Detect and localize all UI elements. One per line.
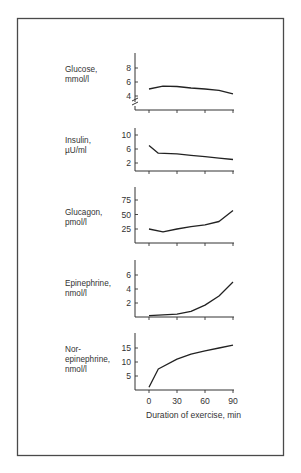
panels: 468Glucose,mmol/l2610Insulin,µU/ml255075…	[65, 53, 234, 393]
y-tick-label: 75	[121, 195, 131, 205]
panel-label: nmol/l	[65, 365, 87, 374]
panel-label: mmol/l	[65, 75, 89, 84]
x-tick-label: 90	[228, 396, 238, 406]
y-tick-label: 6	[126, 270, 131, 280]
x-tick-label: 0	[147, 396, 152, 406]
y-tick-label: 6	[126, 77, 131, 87]
panel-epinephrine: 246Epinephrine,nmol/l	[65, 260, 234, 320]
y-tick-label: 15	[121, 343, 131, 353]
exercise-hormone-chart: 468Glucose,mmol/l2610Insulin,µU/ml255075…	[0, 0, 301, 473]
y-tick-label: 4	[126, 284, 131, 294]
data-curve-insulin	[149, 146, 233, 160]
x-axis-title: Duration of exercise, min	[146, 410, 241, 420]
panel-label: Glucagon,	[65, 208, 102, 217]
panel-label: µU/ml	[65, 146, 87, 155]
panel-label: Nor-	[65, 345, 81, 354]
y-tick-label: 10	[121, 357, 131, 367]
panel-label: nmol/l	[65, 289, 87, 298]
panel-label: Glucose,	[65, 65, 97, 74]
y-tick-label: 4	[126, 91, 131, 101]
panel-label: pmol/l	[65, 218, 87, 227]
panel-norepinephrine: 51015Nor-epinephrine,nmol/l	[65, 333, 234, 393]
data-curve-glucose	[149, 86, 233, 94]
y-tick-label: 2	[126, 158, 131, 168]
panel-glucose: 468Glucose,mmol/l	[65, 53, 234, 113]
panel-label: Insulin,	[65, 136, 91, 145]
x-tick-label: 60	[200, 396, 210, 406]
data-curve-glucagon	[149, 210, 233, 232]
y-tick-label: 2	[126, 298, 131, 308]
y-tick-label: 6	[126, 144, 131, 154]
y-tick-label: 8	[126, 63, 131, 73]
data-curve-epinephrine	[149, 282, 233, 316]
y-tick-label: 5	[126, 371, 131, 381]
y-tick-label: 25	[121, 224, 131, 234]
panel-insulin: 2610Insulin,µU/ml	[65, 128, 234, 174]
x-tick-label: 30	[172, 396, 182, 406]
y-tick-label: 10	[121, 130, 131, 140]
x-axis-tick-labels: 0306090	[147, 396, 238, 406]
data-curve-norepinephrine	[149, 345, 233, 387]
panel-glucagon: 255075Glucagon,pmol/l	[65, 187, 234, 246]
panel-label: epinephrine,	[65, 355, 110, 364]
y-tick-label: 50	[121, 210, 131, 220]
panel-label: Epinephrine,	[65, 279, 111, 288]
